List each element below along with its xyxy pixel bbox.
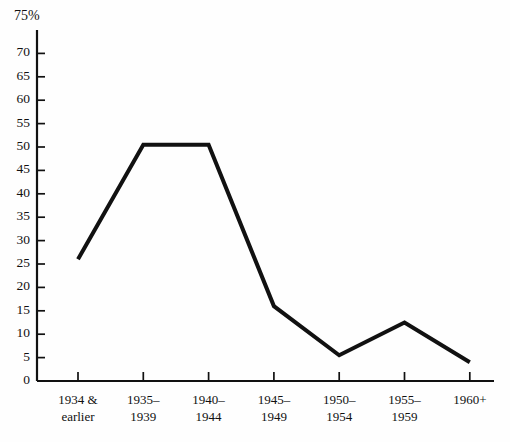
x-tick-label: 1945– 1949 (238, 392, 310, 425)
y-tick-label: 5 (4, 349, 30, 365)
y-tick-label: 60 (4, 91, 30, 107)
x-tick-label: 1960+ (434, 392, 506, 409)
chart-container: 75% 0510152025303540455055606570 1934 & … (0, 0, 510, 442)
y-tick-label: 70 (4, 44, 30, 60)
y-tick-label: 55 (4, 115, 30, 131)
y-tick-label: 25 (4, 255, 30, 271)
y-tick-label: 20 (4, 278, 30, 294)
line-chart-plot (0, 0, 510, 442)
y-tick-label: 45 (4, 161, 30, 177)
y-tick-label: 65 (4, 68, 30, 84)
x-tick-label: 1940– 1944 (173, 392, 245, 425)
data-series-line (78, 145, 470, 363)
y-tick-label: 50 (4, 138, 30, 154)
x-tick-label: 1955– 1959 (369, 392, 441, 425)
x-tick-label: 1935– 1939 (107, 392, 179, 425)
y-tick-label: 0 (4, 372, 30, 388)
x-tick-label: 1934 & earlier (42, 392, 114, 425)
x-axis-ticks (78, 372, 470, 381)
y-axis-ticks (37, 53, 45, 381)
y-tick-label: 30 (4, 232, 30, 248)
y-tick-label: 40 (4, 185, 30, 201)
y-tick-label: 35 (4, 208, 30, 224)
y-tick-label: 10 (4, 325, 30, 341)
axes-group (37, 30, 494, 381)
x-tick-label: 1950– 1954 (303, 392, 375, 425)
y-axis-unit-label: 75% (14, 8, 40, 24)
y-tick-label: 15 (4, 302, 30, 318)
